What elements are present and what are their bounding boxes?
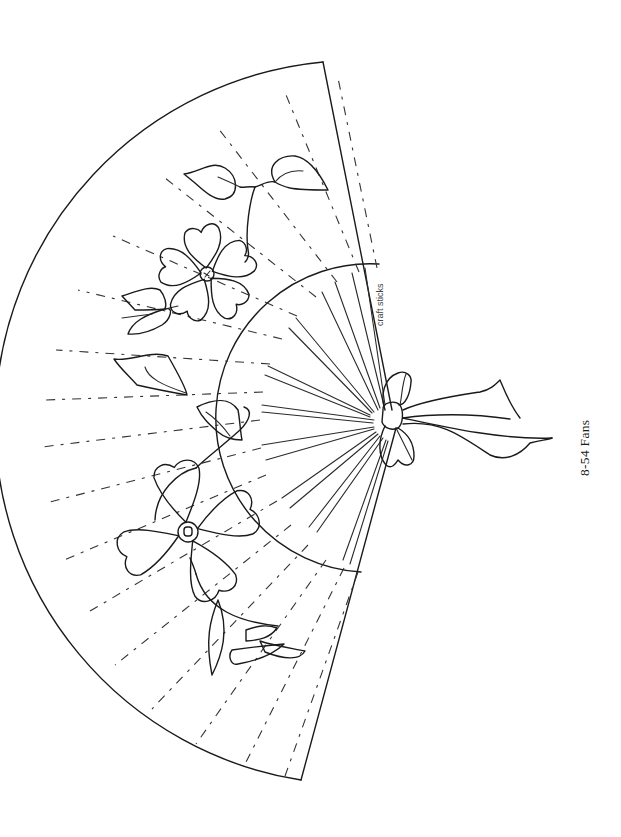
fold-lines <box>42 78 377 776</box>
figure-caption: 8-54 Fans <box>577 420 593 476</box>
upper-flower <box>156 223 260 326</box>
craft-sticks <box>262 268 388 564</box>
fan-drawing <box>0 0 621 837</box>
craft-sticks-label: craft sticks <box>375 283 385 326</box>
pattern-page: craft sticks 8-54 Fans <box>0 0 621 837</box>
ribbon-bow <box>380 372 552 467</box>
